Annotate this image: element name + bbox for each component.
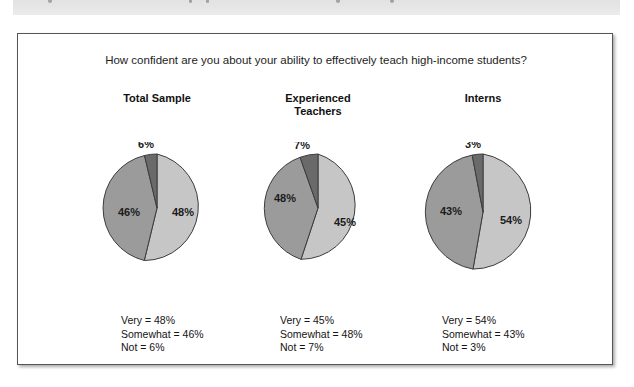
pie-label-somewhat: 43% <box>440 205 462 217</box>
text-descender-fragment <box>390 0 394 3</box>
panel-header-total-sample: Total Sample <box>64 92 250 118</box>
pie-panel-experienced-teachers: Experienced Teachers 45% 48% 7% Very = 4 <box>225 92 411 278</box>
pie-label-not: 7% <box>294 142 310 151</box>
legend-line-very: Very = 48% <box>121 314 204 328</box>
pie-area-total-sample: 48% 46% 6% <box>64 118 250 278</box>
legend-line-very: Very = 45% <box>280 314 363 328</box>
pie-legend-interns: Very = 54% Somewhat = 43% Not = 3% <box>442 314 525 355</box>
legend-line-not: Not = 6% <box>121 341 204 355</box>
figure-title: How confident are you about your ability… <box>18 54 614 66</box>
legend-line-not: Not = 7% <box>280 341 363 355</box>
text-descender-fragment <box>189 0 192 3</box>
pie-label-somewhat: 48% <box>274 192 296 204</box>
pie-legend-experienced-teachers: Very = 45% Somewhat = 48% Not = 7% <box>280 314 363 355</box>
pie-label-not: 6% <box>138 142 154 150</box>
panel-header-line1: Interns <box>465 92 502 104</box>
pie-area-interns: 54% 43% 3% <box>390 118 576 278</box>
pie-legend-total-sample: Very = 48% Somewhat = 46% Not = 6% <box>121 314 204 355</box>
legend-line-very: Very = 54% <box>442 314 525 328</box>
pie-panel-total-sample: Total Sample 48% 46% 6% Very = 48% <box>64 92 250 278</box>
panel-header-experienced-teachers: Experienced Teachers <box>225 92 411 118</box>
panel-header-line2: Teachers <box>225 105 411 118</box>
panel-header-interns: Interns <box>390 92 576 118</box>
pie-chart-interns: 54% 43% 3% <box>413 142 553 282</box>
panel-header-line1: Experienced <box>285 92 350 104</box>
pie-svg-experienced-teachers: 45% 48% 7% <box>252 142 384 274</box>
text-descender-fragment <box>336 0 340 3</box>
legend-line-somewhat: Somewhat = 43% <box>442 328 525 342</box>
text-descender-fragment <box>48 0 52 3</box>
legend-line-not: Not = 3% <box>442 341 525 355</box>
pie-label-somewhat: 46% <box>118 206 140 218</box>
legend-line-somewhat: Somewhat = 46% <box>121 328 204 342</box>
pie-label-very: 48% <box>172 206 194 218</box>
scanned-header-band <box>13 0 620 15</box>
legend-line-somewhat: Somewhat = 48% <box>280 328 363 342</box>
figure-frame: How confident are you about your ability… <box>17 33 613 365</box>
pie-svg-interns: 54% 43% 3% <box>413 142 553 282</box>
panel-header-line1: Total Sample <box>123 92 191 104</box>
pie-svg-total-sample: 48% 46% 6% <box>91 142 223 274</box>
pie-area-experienced-teachers: 45% 48% 7% <box>225 118 411 278</box>
pie-chart-experienced-teachers: 45% 48% 7% <box>252 142 384 274</box>
pie-chart-total-sample: 48% 46% 6% <box>91 142 223 274</box>
pie-label-very: 45% <box>334 216 356 228</box>
text-descender-fragment <box>206 0 209 3</box>
pie-label-very: 54% <box>500 214 522 226</box>
pie-panel-interns: Interns 54% 43% 3% Very = 54% Som <box>390 92 576 278</box>
pie-label-not: 3% <box>465 142 481 150</box>
